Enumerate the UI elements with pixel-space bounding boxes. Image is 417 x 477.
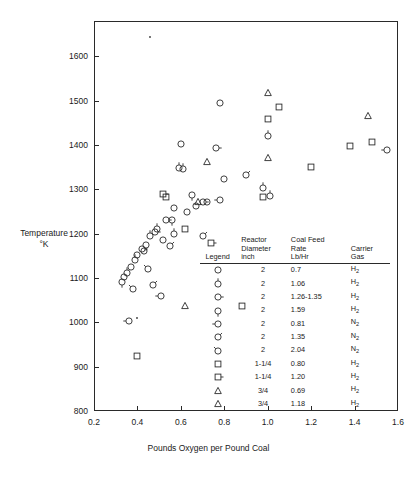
legend-gas: H2 <box>351 263 390 277</box>
legend: Legend Reactor Diameter inch Coal Feed R… <box>200 236 390 411</box>
legend-rate: 0.80 <box>291 357 351 370</box>
legend-symbol-glyph <box>212 331 224 343</box>
y-axis-title: Temperature °K <box>8 228 80 250</box>
legend-rate: 1.26-1.35 <box>291 291 351 304</box>
legend-rate: 0.69 <box>291 384 351 397</box>
legend-gas: H2 <box>351 384 390 397</box>
legend-symbol-glyph <box>212 305 224 317</box>
legend-diameter: 1-1/4 <box>239 357 291 370</box>
legend-diameter: 2 <box>239 344 291 357</box>
y-tick-mark <box>94 367 99 368</box>
legend-diameter: 1-1/4 <box>239 371 291 384</box>
y-tick-mark <box>94 101 99 102</box>
legend-symbol-glyph <box>212 278 224 290</box>
legend-symbol <box>200 291 239 304</box>
legend-rate: 1.06 <box>291 277 351 290</box>
legend-header-symbol: Legend <box>200 236 239 263</box>
legend-symbol <box>200 304 239 317</box>
legend-row: 20.7H2 <box>200 263 390 277</box>
legend-symbol <box>200 317 239 330</box>
legend-gas: N2 <box>351 344 390 357</box>
x-tick-label: 0.6 <box>161 417 201 427</box>
x-axis-tick-labels: 0.20.40.60.81.01.21.41.6 <box>0 417 417 431</box>
x-axis-title: Pounds Oxygen per Pound Coal <box>0 443 417 453</box>
legend-rate: 1.18 <box>291 398 351 411</box>
legend-row: 21.26-1.35H2 <box>200 291 390 304</box>
legend-diameter: 2 <box>239 304 291 317</box>
legend-symbol-glyph <box>212 371 224 383</box>
legend-rate: 0.81 <box>291 317 351 330</box>
legend-symbol <box>200 371 239 384</box>
y-tick-mark <box>94 56 99 57</box>
legend-gas: H2 <box>351 291 390 304</box>
legend-row: 1-1/41.20H2 <box>200 371 390 384</box>
legend-header-gas: Carrier Gas <box>351 236 390 263</box>
legend-row: 21.06H2 <box>200 277 390 290</box>
x-tick-label: 1.2 <box>291 417 331 427</box>
x-tick-label: 1.0 <box>248 417 288 427</box>
x-tick-label: 0.4 <box>117 417 157 427</box>
legend-header-diameter: Reactor Diameter inch <box>239 236 291 263</box>
legend-symbol <box>200 384 239 397</box>
legend-symbol <box>200 357 239 370</box>
legend-gas: H2 <box>351 398 390 411</box>
legend-symbol-glyph <box>212 291 224 303</box>
x-tick-label: 0.8 <box>204 417 244 427</box>
x-tick-mark <box>137 406 138 411</box>
x-tick-label: 0.2 <box>74 417 114 427</box>
legend-symbol-glyph <box>212 264 224 276</box>
legend-header-diameter-l3: inch <box>241 252 254 261</box>
x-tick-label: 1.4 <box>335 417 375 427</box>
legend-symbol <box>200 331 239 344</box>
legend-row: 21.35N2 <box>200 331 390 344</box>
legend-symbol-glyph <box>212 345 224 357</box>
legend-diameter: 3/4 <box>239 398 291 411</box>
legend-body: 20.7H221.06H221.26-1.35H221.59H220.81N22… <box>200 263 390 411</box>
legend-header-rate-l3: Lb/Hr <box>291 252 309 261</box>
legend-diameter: 2 <box>239 291 291 304</box>
legend-header-gas-l2: Gas <box>351 252 364 261</box>
legend-gas: N2 <box>351 317 390 330</box>
legend-symbol-glyph <box>212 318 224 330</box>
legend-symbol <box>200 277 239 290</box>
y-tick-label: 800 <box>48 407 88 416</box>
legend-diameter: 2 <box>239 317 291 330</box>
y-tick-label: 1100 <box>48 274 88 283</box>
y-tick-label: 1400 <box>48 141 88 150</box>
legend-row: 21.59H2 <box>200 304 390 317</box>
legend-row: 20.81N2 <box>200 317 390 330</box>
y-axis-title-line1: Temperature <box>20 228 68 238</box>
legend-gas: H2 <box>351 277 390 290</box>
legend-gas: N2 <box>351 331 390 344</box>
legend-diameter: 2 <box>239 263 291 277</box>
legend-rate: 2.04 <box>291 344 351 357</box>
legend-diameter: 2 <box>239 331 291 344</box>
legend-rate: 1.20 <box>291 371 351 384</box>
x-tick-label: 1.6 <box>378 417 417 427</box>
legend-symbol-glyph <box>212 385 224 397</box>
y-tick-label: 1000 <box>48 318 88 327</box>
legend-symbol <box>200 398 239 411</box>
legend-symbol <box>200 344 239 357</box>
legend-header-rate: Coal Feed Rate Lb/Hr <box>291 236 351 263</box>
legend-header-symbol-text: Legend <box>205 252 229 261</box>
legend-rate: 1.35 <box>291 331 351 344</box>
y-tick-label: 900 <box>48 363 88 372</box>
y-axis-title-line2: °K <box>39 239 48 249</box>
y-tick-mark <box>94 322 99 323</box>
legend-symbol-glyph <box>212 358 224 370</box>
x-tick-mark <box>181 406 182 411</box>
y-tick-label: 1600 <box>48 52 88 61</box>
y-tick-mark <box>94 189 99 190</box>
scatter-plot-figure: 8009001000110012001300140015001600 0.20.… <box>0 0 417 477</box>
legend-gas: H2 <box>351 304 390 317</box>
legend-row: 1-1/40.80H2 <box>200 357 390 370</box>
legend-row: 3/41.18H2 <box>200 398 390 411</box>
legend-symbol <box>200 263 239 277</box>
legend-table: Legend Reactor Diameter inch Coal Feed R… <box>200 236 390 411</box>
legend-gas: H2 <box>351 371 390 384</box>
legend-rate: 1.59 <box>291 304 351 317</box>
y-tick-mark <box>94 145 99 146</box>
legend-rate: 0.7 <box>291 263 351 277</box>
legend-gas: H2 <box>351 357 390 370</box>
